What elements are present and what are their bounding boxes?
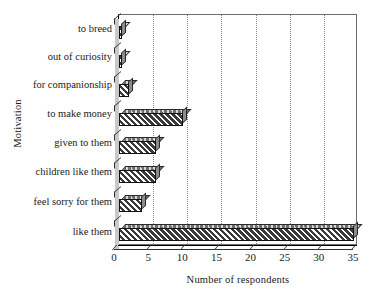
y-tick-label: like them [73,226,112,237]
bar-front-face [119,26,122,39]
bar [119,166,160,183]
bar-body [119,22,126,39]
bar-front-face [119,84,129,97]
bar-front-face [119,199,142,212]
x-tick-label: 10 [167,251,197,263]
bar [119,22,126,39]
bar-body [119,137,160,154]
y-tick-label: to make money [47,108,112,119]
gridline [290,15,291,246]
gridline [187,15,188,246]
bar-chart: Motivation to breed out of curiosity for… [0,0,372,299]
x-tick-label: 35 [338,251,368,263]
x-tick-label: 5 [133,251,163,263]
bar-body [119,80,133,97]
bar-front-face [119,55,122,68]
bar-body [119,51,126,68]
plot-area [118,14,357,245]
x-tick-label: 15 [201,251,231,263]
bar [119,137,160,154]
y-tick-label: out of curiosity [48,51,112,62]
gridline [324,15,325,246]
y-tick-label: for companionship [33,79,112,90]
bar-front-face [119,170,156,183]
x-tick-label: 30 [304,251,334,263]
bar-body [119,109,187,126]
bar [119,80,133,97]
y-tick-label: feel sorry for them [34,196,112,207]
gridline [256,15,257,246]
x-axis-title: Number of respondents [118,274,358,285]
gridline [153,15,154,246]
bar [119,224,358,241]
bar-body [119,166,160,183]
gridline [221,15,222,246]
x-tick-label: 20 [236,251,266,263]
bar [119,109,187,126]
x-tick-label: 25 [270,251,300,263]
bar-body [119,195,146,212]
y-tick-label: children like them [36,166,112,177]
bar-front-face [119,113,183,126]
x-tick-label: 0 [99,251,129,263]
bar-front-face [119,228,354,241]
y-tick-label: to breed [78,23,112,34]
bar [119,195,146,212]
bar-front-face [119,141,156,154]
bar [119,51,126,68]
bar-body [119,224,358,241]
y-tick-label: given to them [54,137,112,148]
